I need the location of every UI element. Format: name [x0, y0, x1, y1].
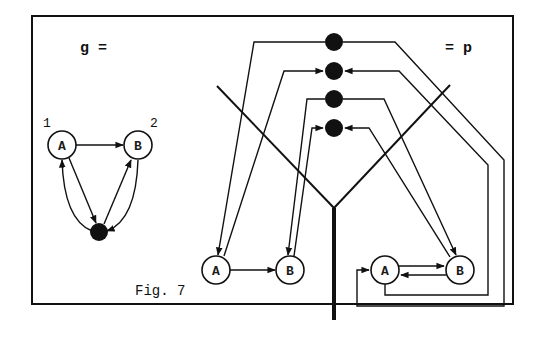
divider-left-arm — [217, 86, 334, 208]
left-title: g = — [80, 40, 107, 57]
edge-hub-b — [104, 160, 131, 224]
figure-frame — [32, 16, 513, 304]
figure-canvas: g = = p 1 2 A B — [0, 0, 555, 356]
dot-2 — [325, 62, 343, 80]
node-b-label: B — [134, 139, 142, 154]
wire-dot4-right — [345, 128, 450, 257]
right-title: = p — [445, 40, 472, 57]
dot-4 — [325, 119, 343, 137]
figure-caption: Fig. 7 — [135, 283, 185, 299]
graph-g: 1 2 A B — [43, 116, 158, 241]
node-index-2: 2 — [150, 116, 158, 131]
wire-dot3-left — [288, 99, 325, 255]
divider-right-arm — [334, 85, 450, 208]
edge-b-hub — [107, 160, 138, 231]
graph-p: A B A B — [202, 33, 504, 320]
dot-1 — [325, 33, 343, 51]
right-node-a-label: A — [381, 264, 389, 279]
hub-dot — [90, 223, 108, 241]
dot-3 — [325, 90, 343, 108]
left-node-a-label: A — [212, 264, 220, 279]
right-node-b-label: B — [456, 264, 464, 279]
node-a-label: A — [58, 139, 66, 154]
node-index-1: 1 — [43, 116, 51, 131]
left-node-b-label: B — [286, 264, 294, 279]
edge-hub-a — [62, 160, 92, 231]
